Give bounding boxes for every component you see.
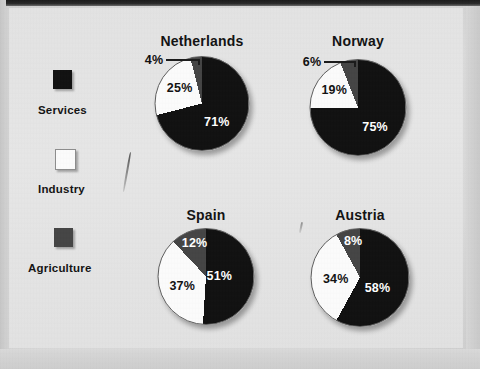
pie-chart-austria: Austria 58% 34% 8%	[305, 207, 415, 337]
pie-chart-netherlands: Netherlands 71% 25% 4%	[148, 33, 256, 163]
slice-label-netherlands-services: 71%	[204, 115, 230, 129]
scanned-figure-page: Services Industry Agriculture Netherland…	[0, 0, 480, 369]
legend-label-services: Services	[38, 104, 87, 116]
pie-wrap-austria: 58% 34% 8%	[311, 228, 410, 327]
page-bottom-edge	[0, 349, 480, 369]
chart-title-norway: Norway	[303, 33, 413, 49]
legend-label-agriculture: Agriculture	[28, 262, 92, 274]
legend-label-industry: Industry	[38, 183, 85, 195]
pie-wrap-netherlands: 71% 25%	[155, 56, 250, 151]
pie-spain: 51% 37% 12%	[158, 228, 255, 325]
slice-label-austria-services: 58%	[365, 281, 391, 295]
slice-label-norway-services: 75%	[362, 120, 388, 134]
slice-label-spain-industry: 37%	[169, 279, 195, 293]
chart-title-spain: Spain	[152, 207, 260, 223]
pie-netherlands: 71% 25%	[155, 56, 250, 151]
pie-wrap-spain: 51% 37% 12%	[158, 228, 255, 325]
slice-label-spain-agriculture: 12%	[182, 236, 208, 250]
slice-label-spain-services: 51%	[206, 269, 232, 283]
page-right-edge	[466, 0, 480, 369]
page-left-edge	[0, 0, 9, 369]
leader-tick-netherlands	[198, 59, 200, 65]
legend-swatch-agriculture	[54, 228, 73, 247]
chart-title-austria: Austria	[305, 207, 415, 223]
slice-label-norway-agriculture: 6%	[303, 55, 321, 69]
pie-norway: 75% 19%	[310, 59, 407, 156]
chart-title-netherlands: Netherlands	[148, 33, 256, 49]
pie-chart-norway: Norway 75% 19% 6%	[303, 33, 413, 163]
legend-swatch-industry	[55, 149, 76, 170]
legend-swatch-services	[53, 70, 72, 89]
pie-wrap-norway: 75% 19%	[310, 59, 407, 156]
pie-austria: 58% 34% 8%	[311, 228, 410, 327]
slice-label-norway-industry: 19%	[321, 83, 347, 97]
page-top-black-bar	[6, 0, 480, 6]
slice-label-netherlands-agriculture: 4%	[145, 53, 163, 67]
leader-tick-norway	[354, 61, 356, 67]
slice-label-netherlands-industry: 25%	[167, 81, 193, 95]
pie-chart-spain: Spain 51% 37% 12%	[152, 207, 260, 337]
leader-line-norway	[324, 61, 355, 63]
leader-line-netherlands	[166, 59, 199, 61]
slice-label-austria-agriculture: 8%	[344, 234, 362, 248]
slice-label-austria-industry: 34%	[323, 272, 349, 286]
